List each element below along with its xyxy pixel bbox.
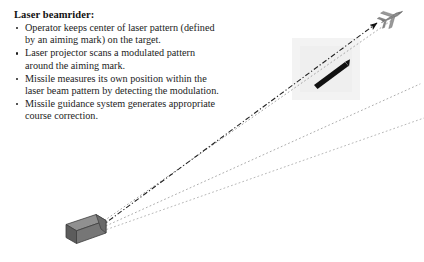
list-item-text: Missile measures its own position within…: [25, 73, 219, 96]
list-item: Missile measures its own position within…: [14, 73, 219, 98]
bullet-dot-icon: [16, 78, 18, 80]
list-item-text: Laser projector scans a modulated patter…: [25, 47, 195, 70]
beam-edge-lower-line: [88, 118, 424, 236]
list-item: Operator keeps center of laser pattern (…: [14, 22, 219, 47]
bullet-dot-icon: [16, 103, 18, 105]
missile: [314, 59, 350, 89]
bullet-dot-icon: [16, 27, 18, 29]
list-item: Missile guidance system generates approp…: [14, 98, 219, 123]
text-block: Laser beamrider: Operator keeps center o…: [14, 8, 219, 123]
list-item-text: Missile guidance system generates approp…: [25, 98, 215, 121]
page-title: Laser beamrider:: [14, 8, 219, 21]
bullet-dot-icon: [16, 52, 18, 54]
aircraft-target: [376, 3, 407, 31]
laser-pattern-region: [292, 38, 360, 100]
list-item-text: Operator keeps center of laser pattern (…: [25, 22, 215, 45]
laser-projector-launcher: [66, 215, 106, 244]
list-item: Laser projector scans a modulated patter…: [14, 47, 219, 72]
slide-canvas: Laser beamrider: Operator keeps center o…: [0, 0, 424, 262]
bullet-list: Operator keeps center of laser pattern (…: [14, 22, 219, 123]
